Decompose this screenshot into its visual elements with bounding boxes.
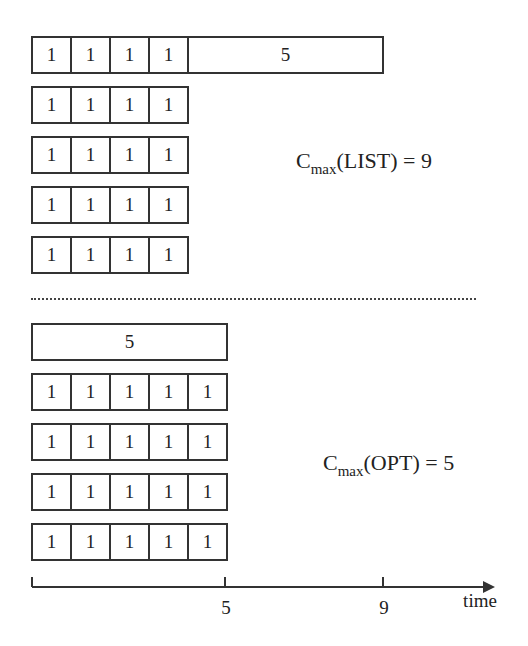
job-cell: 1 <box>109 136 150 174</box>
label-suffix: (LIST) = 9 <box>337 148 433 173</box>
axis-tick-0 <box>31 577 33 587</box>
job-cell: 1 <box>109 186 150 224</box>
job-cell: 1 <box>148 186 189 224</box>
label-sub: max <box>311 161 337 177</box>
job-cell: 1 <box>31 136 72 174</box>
axis-tick-label-9: 9 <box>379 597 389 619</box>
job-cell: 1 <box>31 236 72 274</box>
job-cell: 1 <box>31 523 72 561</box>
job-cell: 1 <box>148 236 189 274</box>
list-machine-row-5: 1 1 1 1 <box>31 236 189 274</box>
job-cell: 1 <box>31 86 72 124</box>
list-machine-row-1: 1 1 1 1 5 <box>31 36 384 74</box>
job-cell-long: 5 <box>31 323 228 361</box>
list-machine-row-3: 1 1 1 1 <box>31 136 189 174</box>
job-cell: 1 <box>70 186 111 224</box>
axis-line <box>32 586 484 588</box>
job-cell: 1 <box>109 373 150 411</box>
label-c: C <box>296 148 311 173</box>
job-cell: 1 <box>70 36 111 74</box>
opt-machine-row-5: 1 1 1 1 1 <box>31 523 228 561</box>
job-cell: 1 <box>187 473 228 511</box>
job-cell: 1 <box>31 36 72 74</box>
job-cell: 1 <box>70 236 111 274</box>
job-cell: 1 <box>70 136 111 174</box>
axis-tick-9 <box>382 577 384 587</box>
opt-machine-row-1: 5 <box>31 323 228 361</box>
label-suffix: (OPT) = 5 <box>364 450 455 475</box>
list-makespan-label: Cmax(LIST) = 9 <box>296 148 432 178</box>
axis-label: time <box>463 590 497 612</box>
job-cell-long: 5 <box>187 36 384 74</box>
axis-tick-5 <box>224 577 226 587</box>
job-cell: 1 <box>148 36 189 74</box>
job-cell: 1 <box>109 236 150 274</box>
job-cell: 1 <box>70 423 111 461</box>
job-cell: 1 <box>187 523 228 561</box>
label-sub: max <box>338 463 364 479</box>
job-cell: 1 <box>109 423 150 461</box>
job-cell: 1 <box>148 423 189 461</box>
job-cell: 1 <box>70 473 111 511</box>
job-cell: 1 <box>31 423 72 461</box>
job-cell: 1 <box>31 473 72 511</box>
job-cell: 1 <box>109 86 150 124</box>
opt-machine-row-3: 1 1 1 1 1 <box>31 423 228 461</box>
job-cell: 1 <box>31 373 72 411</box>
job-cell: 1 <box>109 473 150 511</box>
job-cell: 1 <box>187 423 228 461</box>
opt-machine-row-4: 1 1 1 1 1 <box>31 473 228 511</box>
job-cell: 1 <box>70 86 111 124</box>
list-machine-row-4: 1 1 1 1 <box>31 186 189 224</box>
job-cell: 1 <box>109 523 150 561</box>
opt-makespan-label: Cmax(OPT) = 5 <box>323 450 454 480</box>
axis-tick-label-5: 5 <box>221 597 231 619</box>
list-machine-row-2: 1 1 1 1 <box>31 86 189 124</box>
job-cell: 1 <box>70 523 111 561</box>
job-cell: 1 <box>148 473 189 511</box>
opt-machine-row-2: 1 1 1 1 1 <box>31 373 228 411</box>
job-cell: 1 <box>187 373 228 411</box>
job-cell: 1 <box>109 36 150 74</box>
job-cell: 1 <box>70 373 111 411</box>
section-divider <box>31 298 476 300</box>
job-cell: 1 <box>148 86 189 124</box>
label-c: C <box>323 450 338 475</box>
job-cell: 1 <box>31 186 72 224</box>
job-cell: 1 <box>148 136 189 174</box>
job-cell: 1 <box>148 373 189 411</box>
job-cell: 1 <box>148 523 189 561</box>
